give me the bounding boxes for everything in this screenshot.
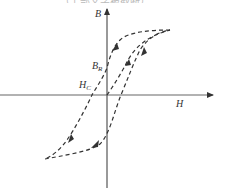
arrow-descending-top-icon: [112, 43, 119, 51]
arrow-descending-bottom-icon: [68, 134, 74, 143]
arrow-ascending-top-icon: [141, 47, 147, 56]
coercivity-label: HC: [78, 79, 91, 92]
arrow-initial-curve-icon: [125, 59, 131, 66]
remanence-label: BR: [92, 60, 103, 73]
initial-magnetization-curve: [107, 30, 170, 95]
h-axis-label: H: [175, 98, 184, 109]
b-axis-label: B: [95, 8, 101, 19]
hysteresis-diagram: B H BR HC: [0, 0, 228, 191]
arrow-ascending-bottom-icon: [91, 140, 99, 148]
